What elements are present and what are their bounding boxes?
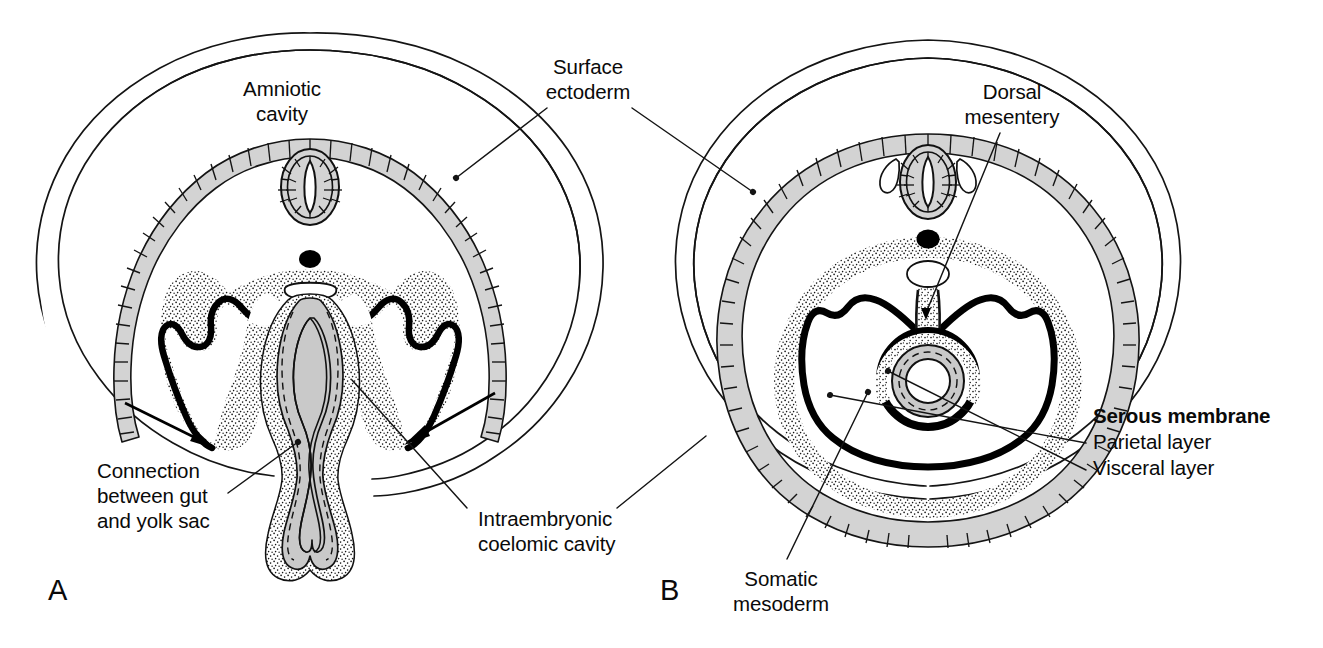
label-dorsal-mesentery-line-2: mesentery [965, 105, 1061, 128]
label-amniotic-cavity-line-1: Amniotic [243, 77, 321, 100]
label-connection-line-3: and yolk sac [97, 509, 210, 532]
label-amniotic-cavity-line-2: cavity [256, 102, 309, 125]
embryology-figure: A [0, 0, 1323, 648]
label-surface-ectoderm-line-1: Surface [553, 55, 623, 78]
label-connection-line-2: between gut [97, 484, 208, 507]
label-connection-gut-yolk-sac: Connection between gut and yolk sac [97, 459, 210, 532]
notochord-b [917, 230, 940, 249]
label-surface-ectoderm-line-2: ectoderm [546, 80, 631, 103]
label-dorsal-mesentery-line-1: Dorsal [983, 80, 1042, 103]
label-parietal-layer: Parietal layer [1093, 430, 1212, 453]
label-serous-membrane-heading: Serous membrane [1093, 404, 1270, 427]
label-coelom-line-2: coelomic cavity [478, 532, 616, 555]
figure-canvas: A [0, 0, 1323, 648]
panel-letter-a: A [48, 574, 68, 606]
label-somatic-mesoderm-line-1: Somatic [744, 567, 817, 590]
label-somatic-mesoderm-line-2: mesoderm [733, 592, 829, 615]
panel-letter-b: B [660, 574, 679, 606]
gut-tube-b [875, 331, 981, 427]
label-connection-line-1: Connection [97, 459, 200, 482]
label-visceral-layer: Visceral layer [1093, 456, 1215, 479]
notochord-a [299, 250, 321, 268]
label-coelom-line-1: Intraembryonic [478, 507, 612, 530]
